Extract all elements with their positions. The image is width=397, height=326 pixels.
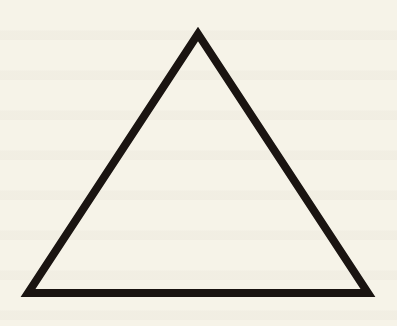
- triangle-outline: [28, 34, 368, 293]
- triangle-figure: [0, 0, 397, 326]
